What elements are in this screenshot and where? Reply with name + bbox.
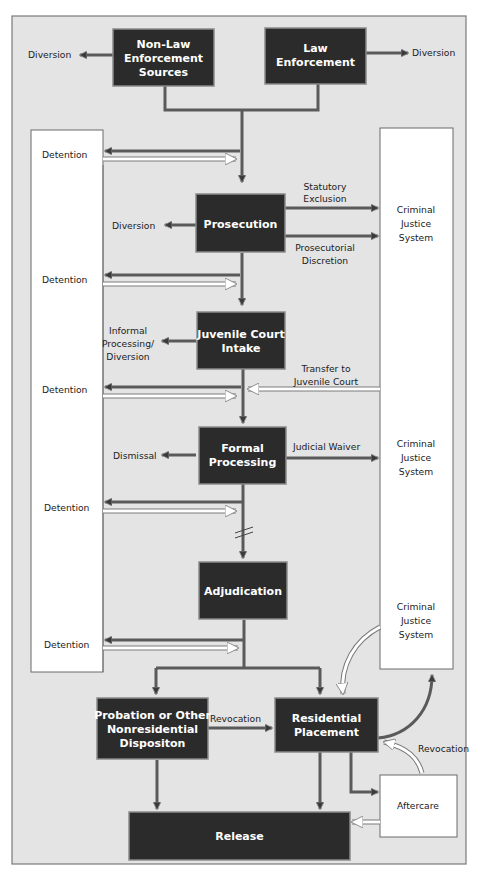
svg-text:Diversion: Diversion: [412, 47, 455, 58]
node-residential-placement: Residential Placement: [275, 698, 378, 752]
node-probation: Probation or Other Nonresidential Dispos…: [94, 698, 211, 759]
svg-text:Detention: Detention: [42, 274, 88, 285]
svg-text:Processing: Processing: [209, 456, 277, 469]
svg-text:Non-Law: Non-Law: [137, 38, 191, 51]
svg-text:System: System: [399, 466, 433, 477]
svg-text:Dispositon: Dispositon: [120, 737, 186, 750]
svg-text:Residential: Residential: [292, 712, 362, 725]
svg-text:Dismissal: Dismissal: [113, 450, 157, 461]
svg-text:Juvenile Court: Juvenile Court: [196, 328, 284, 341]
node-prosecution: Prosecution: [196, 194, 285, 252]
svg-text:Nonresidential: Nonresidential: [107, 723, 198, 736]
node-law-enforcement: Law Enforcement: [265, 28, 366, 84]
svg-text:Release: Release: [215, 830, 264, 843]
svg-text:Law: Law: [303, 42, 328, 55]
svg-text:Processing/: Processing/: [102, 338, 155, 349]
svg-text:Diversion: Diversion: [28, 49, 71, 60]
svg-text:Revocation: Revocation: [418, 743, 469, 754]
svg-text:Prosecutorial: Prosecutorial: [295, 242, 355, 253]
node-formal-processing: Formal Processing: [199, 427, 286, 484]
svg-text:Probation or Other: Probation or Other: [94, 709, 211, 722]
svg-text:Adjudication: Adjudication: [204, 585, 282, 598]
svg-text:System: System: [399, 629, 433, 640]
svg-text:Criminal: Criminal: [397, 204, 435, 215]
node-release: Release: [129, 812, 350, 860]
juvenile-justice-flowchart: Non-Law Enforcement Sources Law Enforcem…: [0, 0, 484, 881]
svg-text:Diversion: Diversion: [112, 220, 155, 231]
svg-text:Diversion: Diversion: [106, 351, 149, 362]
svg-text:Informal: Informal: [109, 325, 147, 336]
svg-text:Juvenile Court: Juvenile Court: [293, 376, 359, 387]
svg-text:Criminal: Criminal: [397, 601, 435, 612]
svg-text:Detention: Detention: [42, 384, 88, 395]
svg-text:Justice: Justice: [400, 452, 432, 463]
svg-text:Detention: Detention: [44, 502, 90, 513]
node-juvenile-court-intake: Juvenile Court Intake: [196, 312, 285, 369]
svg-text:Formal: Formal: [221, 442, 264, 455]
svg-text:Justice: Justice: [400, 218, 432, 229]
svg-text:Enforcement: Enforcement: [124, 52, 203, 65]
svg-text:Statutory: Statutory: [304, 181, 347, 192]
node-non-law-enforcement: Non-Law Enforcement Sources: [113, 29, 214, 86]
detention-panel: [31, 130, 103, 672]
svg-text:Justice: Justice: [400, 615, 432, 626]
svg-text:Judicial Waiver: Judicial Waiver: [292, 441, 360, 452]
svg-text:Prosecution: Prosecution: [204, 218, 278, 231]
svg-text:Discretion: Discretion: [302, 255, 348, 266]
svg-text:System: System: [399, 232, 433, 243]
svg-text:Sources: Sources: [139, 66, 189, 79]
svg-text:Detention: Detention: [44, 639, 90, 650]
svg-text:Criminal: Criminal: [397, 438, 435, 449]
svg-text:Placement: Placement: [294, 726, 359, 739]
node-adjudication: Adjudication: [199, 562, 287, 619]
svg-text:Transfer to: Transfer to: [300, 363, 350, 374]
svg-text:Revocation: Revocation: [210, 713, 261, 724]
svg-text:Intake: Intake: [221, 342, 260, 355]
svg-text:Exclusion: Exclusion: [303, 193, 346, 204]
aftercare-label: Aftercare: [397, 800, 439, 811]
svg-text:Detention: Detention: [42, 149, 88, 160]
svg-text:Enforcement: Enforcement: [276, 56, 355, 69]
